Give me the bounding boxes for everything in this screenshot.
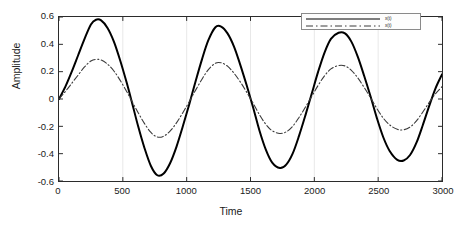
- x-tick-label: 1500: [226, 186, 276, 196]
- x-tick-label: 1000: [161, 186, 211, 196]
- chart-svg: [59, 17, 442, 181]
- y-tick-label: -0.6: [12, 177, 54, 187]
- x-tick-label: 0: [33, 186, 83, 196]
- legend-entry: x(t): [304, 15, 418, 22]
- y-tick-label: -0.4: [12, 149, 54, 159]
- legend-line-sample-solid: [304, 16, 382, 22]
- x-tick-label: 2500: [354, 186, 404, 196]
- legend-line-sample-dashdot: [304, 23, 382, 29]
- legend-label: x(t): [382, 23, 392, 28]
- figure-container: Amplitude 0.60.40.20-0.2-0.4-0.6 0500100…: [0, 0, 462, 225]
- x-tick-label: 2000: [290, 186, 340, 196]
- legend-entry: x(t): [304, 22, 418, 29]
- plot-area: [58, 16, 443, 182]
- y-axis-title: Amplitude: [10, 6, 22, 126]
- legend[interactable]: x(t) x(t): [301, 13, 421, 30]
- x-tick-label: 500: [97, 186, 147, 196]
- x-tick-label: 3000: [418, 186, 462, 196]
- legend-label: x(t): [382, 16, 392, 21]
- x-axis-title: Time: [0, 205, 462, 217]
